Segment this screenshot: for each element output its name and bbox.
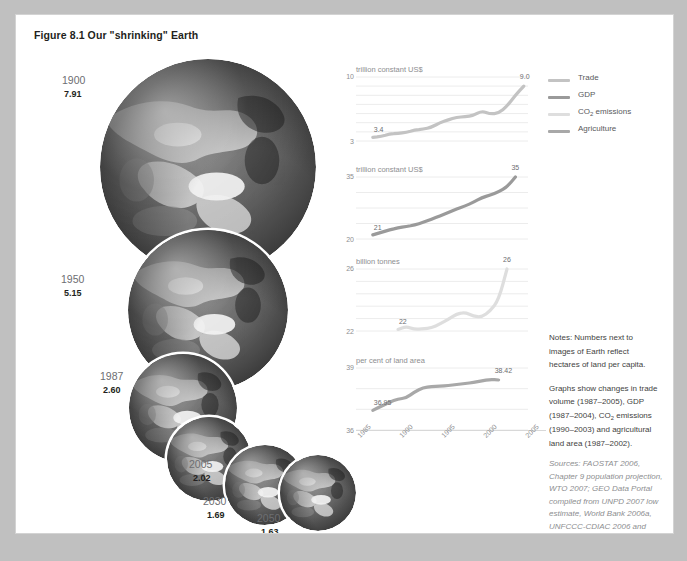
notes-paragraph-2: Graphs show changes in trade volume (198…: [549, 382, 661, 451]
legend-swatch: [548, 96, 570, 99]
legend-item-agriculture: Agriculture: [548, 124, 668, 141]
chart-start-value-label: 21: [374, 224, 382, 231]
chart-start-value-label: 36.95: [374, 399, 392, 406]
chart-co2-emissions: billion tonnes26222226: [356, 269, 528, 331]
chart-series-line: [398, 269, 507, 329]
chart-ytick-top: 26: [346, 265, 354, 272]
chart-ytick-top: 39: [346, 364, 354, 371]
globe-year-label-2050: 2050: [257, 512, 280, 524]
legend-item-gdp: GDP: [548, 90, 668, 107]
chart-ytick-bottom: 36: [346, 427, 354, 434]
globe-sphere-graphic: [280, 455, 356, 531]
sources-block: Sources: FAOSTAT 2006, Chapter 9 populat…: [549, 458, 664, 534]
sources-text: Sources: FAOSTAT 2006, Chapter 9 populat…: [549, 458, 664, 534]
chart-end-value-label: 26: [503, 256, 511, 263]
globe-year-label-1900: 1900: [62, 74, 85, 86]
chart-unit-label: trillion constant US$: [356, 65, 423, 74]
globe-year-label-1987: 1987: [100, 370, 123, 382]
chart-start-value-label: 22: [399, 318, 407, 325]
legend-label: GDP: [578, 90, 595, 99]
chart-ytick-top: 10: [346, 73, 354, 80]
chart-end-value-label: 38.42: [495, 367, 513, 374]
chart-legend: TradeGDPCO2 emissionsAgriculture: [548, 73, 668, 141]
chart-start-value-label: 3.4: [374, 126, 384, 133]
chart-series-line: [373, 86, 524, 137]
chart-agriculture: per cent of land area393636.9538.4219851…: [356, 368, 528, 430]
chart-ytick-top: 35: [346, 173, 354, 180]
chart-ytick-bottom: 3: [350, 138, 354, 145]
globe-year-label-2030: 2030: [203, 495, 226, 507]
globe-2050: [280, 455, 356, 531]
legend-label: Trade: [578, 73, 599, 82]
chart-ytick-bottom: 22: [346, 328, 354, 335]
legend-swatch: [548, 113, 570, 116]
chart-x-tick-labels: 19851990199520002005: [356, 434, 548, 460]
chart-trade: trillion constant US$1033.49.0: [356, 77, 528, 141]
legend-item-co2-emissions: CO2 emissions: [548, 107, 668, 124]
chart-gdp: trillion constant US$35202135: [356, 177, 528, 239]
globe-hectares-value-1900: 7.91: [64, 89, 82, 99]
chart-plot-area: [356, 177, 528, 239]
legend-swatch: [548, 79, 570, 82]
chart-ytick-bottom: 20: [346, 236, 354, 243]
figure-page: Figure 8.1 Our "shrinking" Earth: [0, 0, 687, 561]
legend-label: CO2 emissions: [578, 107, 631, 116]
figure-panel: Figure 8.1 Our "shrinking" Earth: [15, 14, 674, 534]
globe-hectares-value-2030: 1.69: [207, 510, 225, 520]
legend-item-trade: Trade: [548, 73, 668, 90]
legend-swatch: [548, 130, 570, 133]
chart-plot-area: [356, 269, 528, 331]
chart-series-line: [373, 177, 516, 235]
globe-hectares-value-2050: 1.63: [261, 527, 279, 534]
globe-hectares-value-2005: 2.02: [193, 473, 211, 483]
globe-hectares-value-1987: 2.60: [103, 385, 121, 395]
globe-hectares-value-1950: 5.15: [64, 288, 82, 298]
chart-unit-label: billion tonnes: [356, 257, 400, 266]
page-title: Figure 8.1 Our "shrinking" Earth: [34, 29, 198, 41]
chart-end-value-label: 9.0: [520, 73, 530, 80]
notes-paragraph-1: Notes: Numbers next to images of Earth r…: [549, 331, 661, 372]
legend-label: Agriculture: [578, 124, 616, 133]
globe-year-label-2005: 2005: [189, 458, 212, 470]
chart-unit-label: per cent of land area: [356, 356, 425, 365]
chart-end-value-label: 35: [511, 164, 519, 171]
chart-unit-label: trillion constant US$: [356, 165, 423, 174]
globe-year-label-1950: 1950: [61, 273, 84, 285]
chart-series-line: [373, 380, 499, 411]
notes-block: Notes: Numbers next to images of Earth r…: [549, 331, 661, 460]
